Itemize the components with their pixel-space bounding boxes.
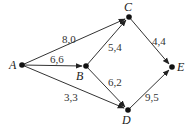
node-e <box>169 64 175 70</box>
edge-label-c-e: 4,4 <box>152 35 166 47</box>
node-label-c: C <box>124 0 133 14</box>
edge-d-e <box>128 70 169 110</box>
node-label-b: B <box>76 69 84 83</box>
edge-label-a-b: 6,6 <box>50 53 64 65</box>
edge-a-b <box>22 65 82 66</box>
edge-label-b-c: 5,4 <box>108 41 122 53</box>
node-label-a: A <box>8 58 17 72</box>
edge-label-a-d: 3,3 <box>64 91 78 103</box>
node-label-d: D <box>121 113 131 127</box>
node-b <box>83 63 89 69</box>
edge-label-d-e: 9,5 <box>145 91 159 103</box>
node-label-e: E <box>176 60 185 74</box>
node-c <box>126 14 132 20</box>
edge-label-b-d: 6,2 <box>108 76 122 88</box>
node-d <box>125 107 131 113</box>
node-a <box>19 62 25 68</box>
edge-label-a-c: 8,0 <box>62 33 76 45</box>
directed-graph: 8,0 6,6 3,3 5,4 6,2 4,4 9,5 A B C D E <box>0 0 194 132</box>
